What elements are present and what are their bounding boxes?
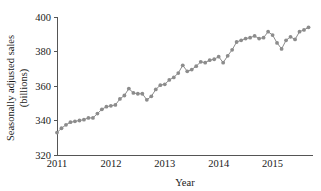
data-point: [109, 104, 113, 108]
y-tick-label: 360: [35, 81, 51, 92]
data-point: [91, 116, 95, 120]
data-point: [289, 35, 293, 39]
data-point: [194, 64, 198, 68]
data-point: [230, 48, 234, 52]
sales-line-chart: 320340360380400 20112012201320142015 Yea…: [0, 0, 321, 191]
y-tick-label: 380: [35, 46, 51, 57]
data-point: [208, 58, 212, 62]
data-point: [145, 98, 149, 102]
data-point: [64, 123, 68, 127]
data-point: [82, 118, 86, 122]
data-point: [280, 47, 284, 51]
y-axis-title-line1: Seasonally adjusted sales: [5, 35, 16, 141]
data-point: [181, 63, 185, 67]
data-point: [253, 34, 257, 38]
data-point: [96, 112, 100, 116]
data-point: [176, 71, 180, 75]
data-point: [284, 38, 288, 42]
data-point: [298, 30, 302, 34]
data-point: [154, 88, 158, 92]
data-point: [127, 87, 131, 91]
data-point: [226, 54, 230, 58]
data-point: [212, 57, 216, 61]
y-tick-label: 340: [35, 115, 51, 126]
data-point: [87, 116, 91, 120]
data-point: [69, 120, 73, 124]
data-point: [257, 37, 261, 41]
x-tick-label: 2014: [208, 158, 230, 169]
data-point: [271, 33, 275, 37]
y-tick-label: 400: [35, 12, 51, 23]
data-point: [100, 107, 104, 111]
data-point: [235, 40, 239, 44]
data-point: [122, 94, 126, 98]
data-point: [140, 92, 144, 96]
data-point: [239, 38, 243, 42]
data-point: [167, 78, 171, 82]
data-point: [248, 36, 252, 40]
data-point: [199, 60, 203, 64]
data-point: [118, 97, 122, 101]
data-point: [78, 119, 82, 123]
data-point: [244, 37, 248, 41]
data-point: [275, 41, 279, 45]
x-tick-label: 2011: [47, 158, 68, 169]
y-axis-title-line2: (billions): [18, 68, 30, 107]
data-point: [136, 92, 140, 96]
data-point: [55, 131, 59, 135]
data-point: [60, 126, 64, 130]
data-point: [131, 91, 135, 95]
data-point: [113, 103, 117, 107]
data-point: [163, 82, 167, 86]
data-point: [172, 75, 176, 79]
data-point: [262, 36, 266, 40]
data-point: [73, 119, 77, 123]
data-point: [185, 69, 189, 73]
data-point: [158, 83, 162, 87]
data-point: [203, 61, 207, 65]
data-point: [217, 55, 221, 59]
x-tick-label: 2013: [154, 158, 175, 169]
data-point: [105, 105, 109, 109]
data-point: [221, 61, 225, 65]
data-point: [307, 25, 311, 29]
chart-figure: 320340360380400 20112012201320142015 Yea…: [0, 0, 321, 191]
data-point: [149, 94, 153, 98]
data-point: [190, 68, 194, 72]
x-axis-title: Year: [175, 177, 195, 188]
x-tick-label: 2015: [262, 158, 283, 169]
data-point: [266, 30, 270, 34]
data-point: [293, 38, 297, 42]
x-tick-label: 2012: [100, 158, 121, 169]
data-point: [302, 28, 306, 32]
